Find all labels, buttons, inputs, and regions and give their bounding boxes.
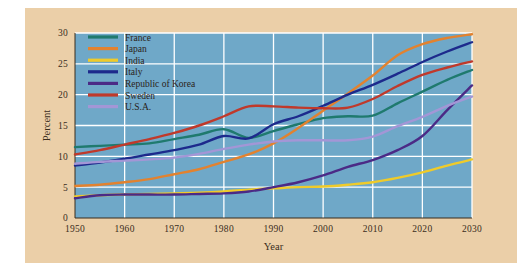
x-tick-label: 1970 [164, 224, 184, 234]
x-tick-label: 2010 [363, 224, 383, 234]
y-axis-title: Percent [41, 110, 52, 142]
y-tick-label: 15 [58, 121, 68, 131]
legend-label: Sweden [125, 91, 155, 101]
line-chart: 0510152025301950196019701980199020002010… [0, 0, 528, 278]
x-tick-label: 1990 [263, 224, 283, 234]
x-tick-label: 1950 [65, 224, 85, 234]
x-tick-label: 2020 [412, 224, 432, 234]
y-tick-label: 30 [58, 28, 68, 38]
x-tick-label: 1960 [115, 224, 135, 234]
x-tick-label: 2000 [313, 224, 333, 234]
y-tick-label: 10 [58, 152, 68, 162]
y-tick-label: 20 [58, 90, 68, 100]
legend-label: Republic of Korea [125, 79, 196, 89]
y-tick-label: 25 [58, 59, 68, 69]
legend-label: Japan [125, 44, 147, 54]
x-axis-title: Year [264, 241, 284, 252]
legend-label: India [125, 56, 145, 66]
x-tick-label: 1980 [214, 224, 234, 234]
legend-label: Italy [125, 67, 143, 77]
y-tick-label: 5 [63, 183, 68, 193]
legend-label: U.S.A. [125, 102, 151, 112]
x-tick-label: 2030 [462, 224, 482, 234]
y-tick-label: 0 [63, 213, 68, 223]
legend-label: France [125, 33, 151, 43]
figure-root: 0510152025301950196019701980199020002010… [0, 0, 528, 278]
